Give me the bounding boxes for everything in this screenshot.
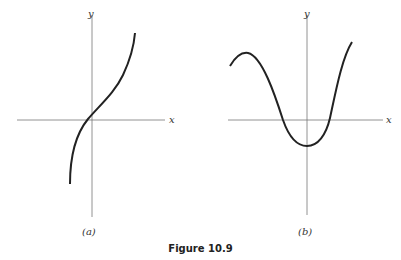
panel-a-x-label: x (169, 114, 175, 125)
panel-b-y-label: y (304, 8, 310, 19)
panel-a-curve (70, 33, 135, 184)
panel-b-label: (b) (298, 226, 312, 237)
figure-caption: Figure 10.9 (0, 243, 401, 254)
panel-a-label: (a) (82, 226, 96, 237)
figure-canvas (0, 0, 401, 260)
panel-a-y-label: y (88, 8, 94, 19)
panel-b-axes (228, 15, 383, 215)
panel-b-curve (230, 42, 352, 146)
panel-b-x-label: x (386, 114, 392, 125)
